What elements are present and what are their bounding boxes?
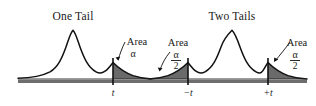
two-tails-left-leader-arrowhead	[158, 67, 163, 71]
one-tail-area-label: Area	[127, 36, 148, 47]
one-tail-axis-label-t: t	[112, 88, 115, 98]
two-tails-axis-label-minus-t: −t	[183, 88, 192, 98]
panel-one-tail: One Tail Area α t	[18, 10, 152, 98]
panel-two-tails: Two Tails Area α 2 Area α 2 −t +t	[149, 10, 308, 98]
two-tails-left-leader-line	[160, 52, 170, 70]
two-tails-left-alpha-symbol: α	[173, 49, 179, 60]
panel-title-one-tail: One Tail	[52, 10, 93, 22]
figure-canvas: One Tail Area α t	[0, 0, 316, 106]
one-tail-alpha-symbol: α	[130, 48, 136, 59]
two-tails-right-denominator: 2	[293, 61, 298, 71]
two-tails-left-area-label: Area	[168, 37, 189, 48]
two-tails-left-shaded-region-outer	[149, 63, 188, 80]
two-tails-left-denominator: 2	[174, 61, 179, 71]
panel-title-two-tails: Two Tails	[209, 10, 256, 22]
two-tails-right-alpha-symbol: α	[292, 49, 298, 60]
two-tails-right-shaded-region	[268, 63, 307, 80]
two-tails-right-area-label: Area	[287, 37, 308, 48]
two-tails-axis-label-plus-t: +t	[263, 88, 272, 98]
one-tail-shaded-region	[113, 63, 152, 80]
statistics-tail-regions-figure: One Tail Area α t	[0, 0, 316, 106]
one-tail-leader-arrowhead	[116, 57, 121, 61]
